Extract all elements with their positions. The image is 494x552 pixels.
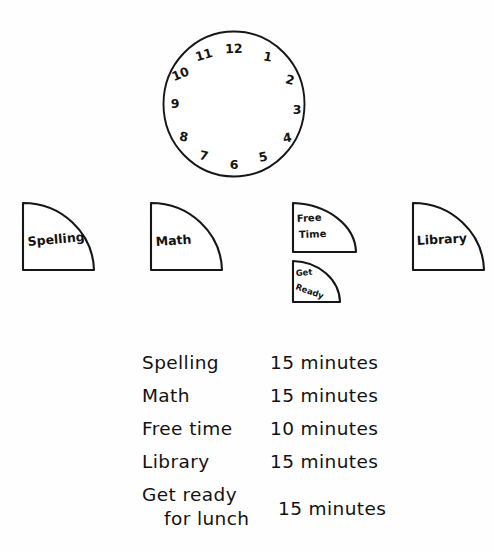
sector-math: Math	[148, 200, 230, 274]
clock-number-12: 12	[225, 41, 243, 57]
legend-row-spelling: Spelling 15 minutes	[142, 352, 472, 385]
sector-get-ready: Get Ready	[290, 258, 346, 306]
legend-name-free-time: Free time	[142, 418, 233, 439]
legend-row-library: Library 15 minutes	[142, 451, 472, 484]
sector-library-label: Library	[416, 230, 467, 248]
legend-row-free-time: Free time 10 minutes	[142, 418, 472, 451]
legend-value-spelling: 15 minutes	[270, 352, 378, 373]
sector-spelling: Spelling	[20, 200, 102, 274]
worksheet-canvas: 12 1 2 3 4 5 6 7 8 9 10 11 Spelling Math	[0, 0, 494, 552]
legend-row-get-ready: Get ready for lunch 15 minutes	[142, 484, 472, 536]
legend-name-math: Math	[142, 385, 190, 406]
clock-face: 12 1 2 3 4 5 6 7 8 9 10 11	[162, 30, 306, 178]
sector-free-time: Free Time	[290, 200, 362, 256]
legend-name-get-ready: Get ready	[142, 484, 237, 505]
sector-library: Library	[410, 200, 492, 274]
legend-name-spelling: Spelling	[142, 352, 219, 373]
sector-math-label: Math	[155, 232, 192, 249]
legend-value-get-ready: 15 minutes	[278, 498, 386, 519]
schedule-legend-list: Spelling 15 minutes Math 15 minutes Free…	[142, 352, 472, 536]
legend-value-free-time: 10 minutes	[270, 418, 378, 439]
sector-free-time-label-line2: Time	[299, 228, 327, 240]
legend-name-get-ready-line2: for lunch	[164, 508, 249, 529]
legend-row-math: Math 15 minutes	[142, 385, 472, 418]
clock-number-3: 3	[293, 102, 302, 117]
sector-get-ready-label-line1: Get	[295, 267, 312, 278]
clock-number-6: 6	[230, 157, 239, 172]
legend-value-math: 15 minutes	[270, 385, 378, 406]
sector-free-time-label-line1: Free	[297, 212, 322, 224]
legend-value-library: 15 minutes	[270, 451, 378, 472]
clock-number-9: 9	[171, 96, 180, 111]
legend-name-library: Library	[142, 451, 210, 472]
